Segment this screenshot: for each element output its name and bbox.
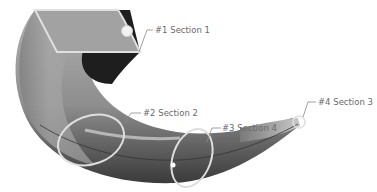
label-section-1: #1 Section 1 bbox=[155, 25, 210, 35]
leader-section-3 bbox=[303, 102, 316, 117]
section-1-point[interactable] bbox=[122, 26, 133, 37]
label-section-4: #3 Section 4 bbox=[222, 123, 277, 133]
label-section-3: #4 Section 3 bbox=[318, 97, 373, 107]
leader-section-1 bbox=[139, 30, 153, 52]
label-section-2: #2 Section 2 bbox=[143, 108, 198, 118]
section-4-point[interactable] bbox=[171, 163, 176, 168]
horn-sweep-diagram: #1 Section 1 #2 Section 2 #3 Section 4 #… bbox=[0, 0, 377, 192]
